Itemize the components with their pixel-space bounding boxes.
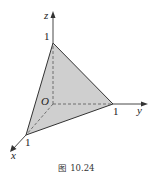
origin-label: O xyxy=(41,96,49,107)
x-axis-label: x xyxy=(11,150,16,161)
shaded-triangle xyxy=(26,43,113,135)
y-axis-label: y xyxy=(137,105,142,116)
z-axis-label: z xyxy=(44,10,48,21)
y-tick-label: 1 xyxy=(113,106,119,117)
z-arrow-icon xyxy=(51,11,56,18)
diagram-canvas xyxy=(0,0,153,178)
y-arrow-icon xyxy=(141,102,148,107)
z-tick-label: 1 xyxy=(44,31,50,42)
figure-caption: 图 10.24 xyxy=(0,161,153,173)
tetrahedron-figure: z 1 O 1 y 1 x 图 10.24 xyxy=(0,0,153,178)
x-tick-label: 1 xyxy=(25,137,31,148)
